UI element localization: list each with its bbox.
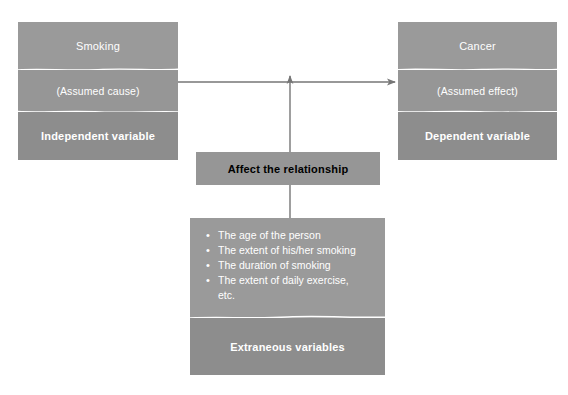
independent-subtitle-band: (Assumed cause) (18, 70, 178, 112)
independent-title-band: Smoking (18, 22, 178, 70)
extraneous-role-label: Extraneous variables (230, 341, 345, 353)
list-item: etc. (218, 288, 356, 303)
moderator-box: Affect the relationship (196, 152, 380, 185)
independent-subtitle: (Assumed cause) (56, 85, 139, 97)
list-item: The extent of his/her smoking (218, 243, 356, 258)
list-item: The age of the person (218, 228, 356, 243)
moderator-label: Affect the relationship (228, 163, 349, 175)
list-item: The extent of daily exercise, (218, 273, 356, 288)
dependent-title-band: Cancer (398, 22, 557, 70)
independent-role-band: Independent variable (18, 112, 178, 160)
dependent-subtitle-band: (Assumed effect) (398, 70, 557, 112)
independent-role-label: Independent variable (41, 130, 155, 142)
extraneous-role-band: Extraneous variables (190, 318, 385, 375)
extraneous-list: The age of the person The extent of his/… (204, 228, 356, 303)
dependent-title: Cancer (459, 40, 496, 52)
dependent-role-band: Dependent variable (398, 112, 557, 160)
dependent-role-label: Dependent variable (425, 130, 530, 142)
independent-variable-box: Smoking (Assumed cause) Independent vari… (18, 22, 178, 160)
independent-title: Smoking (76, 40, 120, 52)
extraneous-list-band: The age of the person The extent of his/… (190, 218, 385, 318)
dependent-variable-box: Cancer (Assumed effect) Dependent variab… (398, 22, 557, 160)
list-item: The duration of smoking (218, 258, 356, 273)
dependent-subtitle: (Assumed effect) (437, 85, 518, 97)
causal-relationship-diagram: Smoking (Assumed cause) Independent vari… (0, 0, 568, 395)
extraneous-variables-box: The age of the person The extent of his/… (190, 218, 385, 375)
figure-caption (0, 384, 568, 395)
